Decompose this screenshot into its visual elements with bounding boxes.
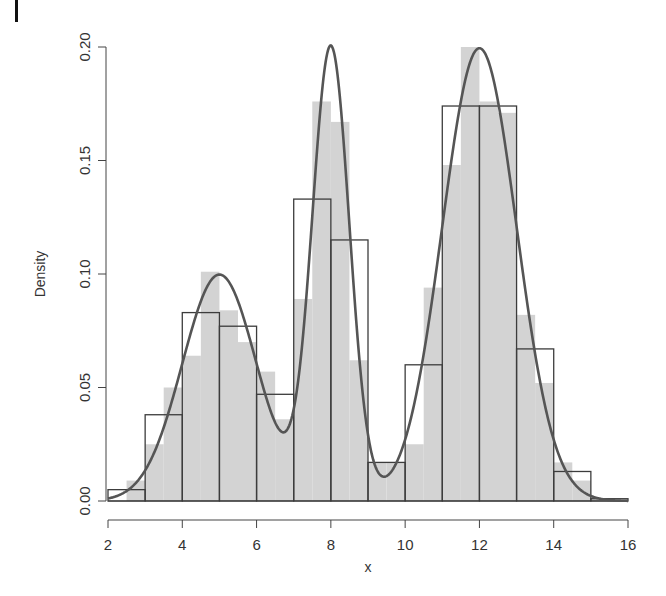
x-axis: 246810121416: [104, 520, 637, 553]
fine-bar: [201, 272, 220, 501]
x-tick-label: 2: [104, 536, 112, 553]
y-tick-label: 0.05: [76, 373, 93, 402]
x-tick-label: 8: [327, 536, 335, 553]
fine-bar: [424, 288, 443, 501]
x-tick-label: 4: [178, 536, 186, 553]
fine-bar: [257, 372, 276, 501]
fine-bar: [349, 360, 368, 501]
x-tick-label: 12: [471, 536, 488, 553]
fine-bar: [387, 462, 406, 501]
x-tick-label: 16: [620, 536, 637, 553]
fine-bar: [405, 444, 424, 501]
fine-bar: [479, 101, 498, 501]
y-tick-label: 0.20: [76, 32, 93, 61]
fine-bar: [182, 356, 201, 501]
fine-bar: [238, 342, 257, 501]
fine-bar: [164, 388, 183, 502]
y-axis-title: Density: [32, 251, 48, 298]
y-tick-label: 0.10: [76, 259, 93, 288]
fine-bar: [554, 462, 573, 501]
y-axis: 0.000.050.100.150.20: [76, 32, 106, 515]
density-histogram-chart: 0.000.050.100.150.20 246810121416 x Dens…: [0, 0, 666, 596]
fine-bar: [219, 310, 238, 501]
fine-bar: [461, 47, 480, 501]
y-tick-label: 0.15: [76, 146, 93, 175]
x-tick-label: 6: [252, 536, 260, 553]
x-tick-label: 14: [545, 536, 562, 553]
x-tick-label: 10: [397, 536, 414, 553]
x-axis-title: x: [365, 559, 372, 575]
y-tick-label: 0.00: [76, 486, 93, 515]
fine-bar: [498, 113, 517, 501]
